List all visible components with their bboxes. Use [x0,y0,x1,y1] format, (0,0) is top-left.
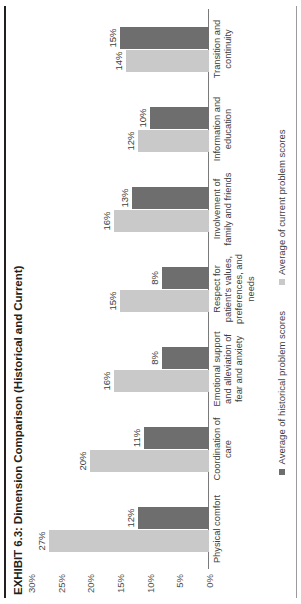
y-axis-tick-labels: 30%25%20%15%10%5%0% [31,571,209,595]
bar-value-label: 12% [125,508,136,527]
category-label: Coordination of care [212,409,234,489]
category-label: Involvement of family and friends [212,169,234,249]
bar-value-label: 12% [125,131,136,150]
y-axis-tick: 5% [174,574,185,588]
bar-group: 27%12% [31,489,209,569]
bar [114,370,209,392]
bar [138,130,209,152]
legend-label: Average of current problem scores [276,129,287,275]
bar [120,27,209,49]
bar [114,210,209,232]
bar [120,290,209,312]
bar-value-label: 14% [113,51,124,70]
bar-group: 20%11% [31,409,209,489]
bar-group: 14%15% [31,9,209,89]
bar-value-label: 27% [36,531,47,550]
y-axis-tick: 10% [144,574,155,593]
category-label: Respect for patient's values, preference… [212,249,257,329]
y-axis-tick: 30% [26,574,37,593]
bar-value-label: 8% [149,271,160,285]
bar-value-label: 15% [107,291,118,310]
exhibit-title: EXHIBIT 6.3: Dimension Comparison (Histo… [11,266,24,595]
category-label: Emotional support and alleviation of fea… [212,329,246,409]
bar-value-label: 16% [101,371,112,390]
bar [150,107,209,129]
bar-value-label: 16% [101,211,112,230]
bar-value-label: 20% [77,451,88,470]
y-axis-tick: 0% [204,574,215,588]
bar-value-label: 8% [149,351,160,365]
chart-legend: Average of historical problem scoresAver… [276,0,287,604]
legend-swatch-icon [279,279,285,285]
bar-group: 16%13% [31,169,209,249]
bar-group: 15%8% [31,249,209,329]
legend-label: Average of historical problem scores [276,311,287,464]
bar-group: 16%8% [31,329,209,409]
bar-group: 12%10% [31,89,209,169]
bar-value-label: 11% [131,429,142,447]
rotated-page-wrapper: EXHIBIT 6.3: Dimension Comparison (Histo… [0,0,301,604]
x-axis-category-labels: Physical comfortCoordination of careEmot… [212,9,256,569]
category-label: Transition and continuity [212,9,234,89]
bottom-rule [296,6,297,598]
bar [162,347,209,369]
y-axis-tick: 15% [115,574,126,593]
bar [90,450,209,472]
exhibit-page: EXHIBIT 6.3: Dimension Comparison (Histo… [0,0,301,604]
bar [49,530,209,552]
category-label: Information and education [212,89,234,169]
y-axis-tick: 25% [55,574,66,593]
legend-item: Average of historical problem scores [276,311,287,474]
bar [126,50,209,72]
chart-plot-area: 30%25%20%15%10%5%0% 27%12%20%11%16%8%15%… [31,9,246,595]
bar-value-label: 15% [107,28,118,47]
bar [138,507,209,529]
bar [132,187,209,209]
legend-swatch-icon [279,469,285,475]
top-rule [4,6,6,598]
bars-area: 27%12%20%11%16%8%15%8%16%13%12%10%14%15% [31,9,209,569]
category-label: Physical comfort [212,489,223,569]
bar [144,427,209,449]
y-axis-tick: 20% [85,574,96,593]
bar [162,267,209,289]
legend-item: Average of current problem scores [276,129,287,285]
bar-value-label: 10% [137,108,148,127]
bar-value-label: 13% [119,188,130,207]
